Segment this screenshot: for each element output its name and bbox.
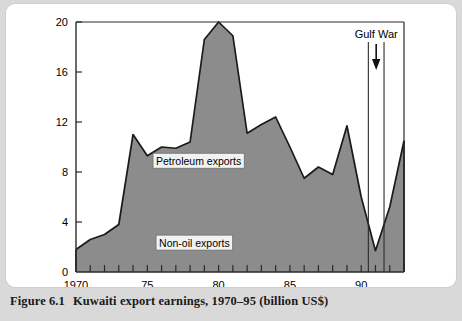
figure-number: Figure 6.1: [10, 294, 65, 308]
figure-caption: Figure 6.1Kuwaiti export earnings, 1970–…: [10, 294, 460, 309]
figure-container: 048121620197075808590Gulf WarPetroleum e…: [0, 0, 462, 321]
y-tick-label: 20: [56, 16, 68, 28]
chart-card: 048121620197075808590Gulf WarPetroleum e…: [6, 4, 456, 287]
figure-caption-text: Kuwaiti export earnings, 1970–95 (billio…: [73, 294, 328, 308]
x-tick-label: 80: [212, 279, 224, 287]
y-tick-label: 0: [62, 266, 68, 278]
down-arrow-icon: [372, 59, 380, 70]
petroleum-exports-label: Petroleum exports: [156, 155, 241, 167]
non-oil-exports-label: Non-oil exports: [159, 237, 230, 249]
gulf-war-label: Gulf War: [355, 28, 398, 40]
y-tick-label: 8: [62, 166, 68, 178]
x-tick-label: 85: [284, 279, 296, 287]
x-tick-label: 75: [141, 279, 153, 287]
area-fill: [76, 22, 404, 272]
x-tick-label: 90: [355, 279, 367, 287]
y-tick-label: 12: [56, 116, 68, 128]
export-earnings-area-chart: 048121620197075808590Gulf WarPetroleum e…: [6, 4, 456, 287]
x-tick-label: 1970: [64, 279, 88, 287]
y-tick-label: 4: [62, 216, 68, 228]
y-tick-label: 16: [56, 66, 68, 78]
